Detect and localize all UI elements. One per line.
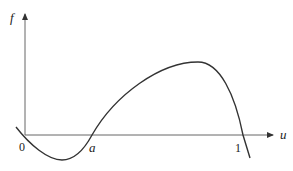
origin-label: 0 xyxy=(19,140,25,154)
x-axis-label: u xyxy=(280,127,287,142)
root-a-label: a xyxy=(89,140,96,155)
root-1-label: 1 xyxy=(235,141,241,155)
phase-diagram: f u 0 a 1 xyxy=(0,0,293,171)
function-curve xyxy=(16,62,250,160)
y-axis-label: f xyxy=(10,10,16,25)
